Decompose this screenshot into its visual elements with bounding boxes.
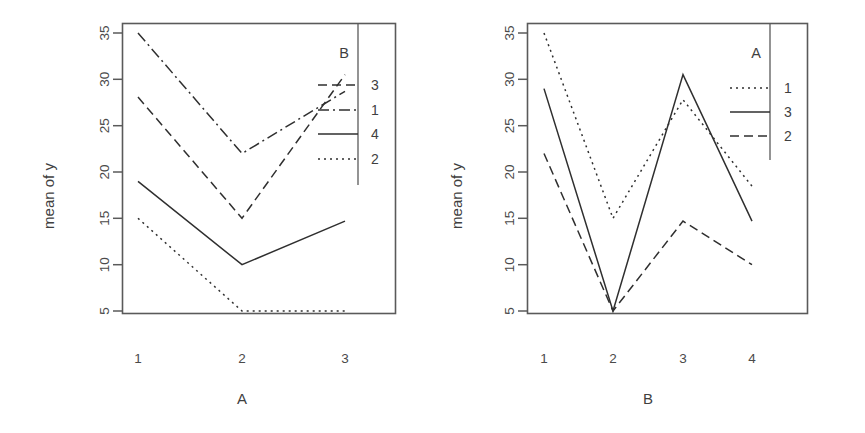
left-plot-frame	[123, 24, 396, 314]
legend-title: A	[751, 45, 761, 61]
y-tick-label: 15	[97, 211, 112, 226]
y-tick-label: 35	[97, 25, 112, 40]
x-tick-label: 4	[748, 351, 756, 366]
right-interaction-plot: 35 30 25 20 15 10 5 mean of y 1 2 3 4 B	[432, 0, 864, 433]
series-line-B4	[138, 181, 345, 264]
legend-title: B	[339, 45, 349, 61]
y-tick-label: 10	[97, 257, 112, 272]
left-y-axis-ticks	[113, 33, 123, 311]
x-tick-label: 2	[609, 351, 617, 366]
left-data-lines	[138, 33, 345, 311]
legend-label-4[interactable]: 2	[371, 151, 379, 167]
legend-label-2[interactable]: 1	[371, 102, 379, 118]
x-tick-label: 1	[540, 351, 548, 366]
series-line-B1	[138, 33, 345, 154]
right-legend[interactable]: A 1 3 2	[730, 24, 792, 161]
y-tick-label: 30	[502, 72, 517, 87]
left-plot-svg: 35 30 25 20 15 10 5 mean of y 1 2 3 A	[0, 0, 432, 433]
y-tick-label: 25	[97, 118, 112, 133]
y-tick-label: 5	[502, 307, 517, 315]
legend-label-1[interactable]: 1	[784, 80, 792, 96]
y-tick-label: 10	[502, 257, 517, 272]
right-y-axis-ticks	[518, 33, 528, 311]
x-tick-label: 2	[238, 351, 246, 366]
series-line-B3	[138, 75, 345, 219]
left-x-axis-title: A	[237, 390, 247, 407]
right-plot-svg: 35 30 25 20 15 10 5 mean of y 1 2 3 4 B	[432, 0, 865, 433]
series-line-A3	[544, 75, 752, 311]
y-tick-label: 20	[97, 164, 112, 179]
left-x-tick-labels: 1 2 3	[134, 351, 349, 366]
left-legend[interactable]: B 3 1 4 2	[318, 24, 379, 186]
right-x-tick-labels: 1 2 3 4	[540, 351, 756, 366]
legend-label-2[interactable]: 3	[784, 104, 792, 120]
right-y-axis-title: mean of y	[448, 163, 465, 229]
legend-label-1[interactable]: 3	[371, 77, 379, 93]
legend-label-3[interactable]: 4	[371, 126, 379, 142]
y-tick-label: 20	[502, 164, 517, 179]
left-y-tick-labels: 35 30 25 20 15 10 5	[97, 25, 112, 314]
interaction-plot-figure: 35 30 25 20 15 10 5 mean of y 1 2 3 A	[0, 0, 865, 433]
y-tick-label: 15	[502, 211, 517, 226]
left-interaction-plot: 35 30 25 20 15 10 5 mean of y 1 2 3 A	[0, 0, 432, 433]
right-y-tick-labels: 35 30 25 20 15 10 5	[502, 25, 517, 314]
y-tick-label: 25	[502, 118, 517, 133]
right-data-lines	[544, 33, 752, 311]
x-tick-label: 3	[679, 351, 687, 366]
right-x-axis-title: B	[643, 390, 653, 407]
left-y-axis-title: mean of y	[40, 163, 57, 229]
y-tick-label: 30	[97, 72, 112, 87]
x-tick-label: 1	[134, 351, 142, 366]
y-tick-label: 5	[97, 307, 112, 315]
legend-label-3[interactable]: 2	[784, 128, 792, 144]
y-tick-label: 35	[502, 25, 517, 40]
series-line-A2	[544, 154, 752, 312]
x-tick-label: 3	[341, 351, 349, 366]
